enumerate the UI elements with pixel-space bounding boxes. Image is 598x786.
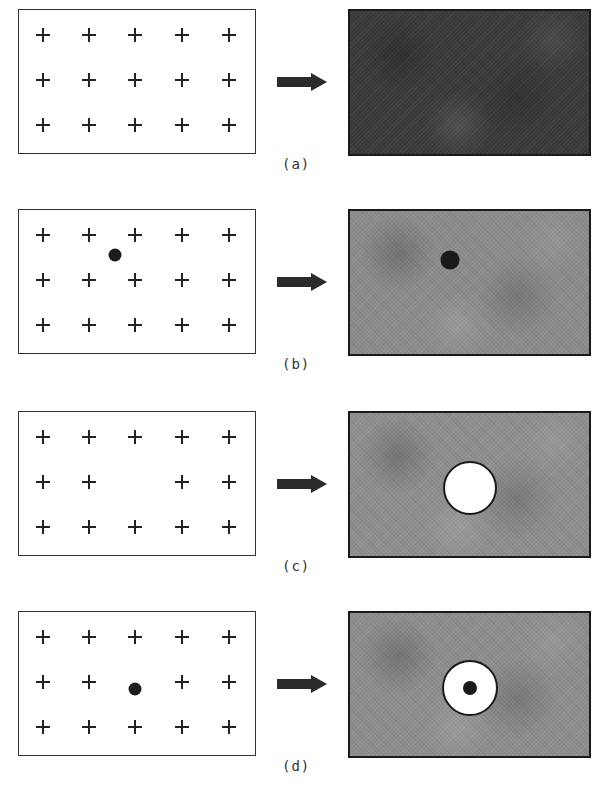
panel-label: (a)	[282, 156, 310, 172]
lattice-site-cross-icon	[36, 228, 50, 242]
lattice-site-cross-icon	[82, 28, 96, 42]
lattice-site-cross-icon	[222, 73, 236, 87]
panel-label: (b)	[282, 356, 310, 372]
lattice-site-cross-icon	[82, 318, 96, 332]
lattice-site-cross-icon	[82, 273, 96, 287]
panel-b: (b)	[0, 209, 598, 405]
lattice-site-cross-icon	[222, 430, 236, 444]
lattice-site-cross-icon	[82, 430, 96, 444]
lattice-box	[18, 209, 256, 354]
lattice-site-cross-icon	[175, 28, 189, 42]
lattice-site-cross-icon	[222, 318, 236, 332]
lattice-site-cross-icon	[36, 118, 50, 132]
lattice-site-cross-icon	[36, 28, 50, 42]
result-image-box	[348, 611, 591, 758]
lattice-site-cross-icon	[82, 630, 96, 644]
lattice-site-cross-icon	[222, 520, 236, 534]
lattice-site-cross-icon	[222, 720, 236, 734]
lattice-site-cross-icon	[82, 720, 96, 734]
lattice-site-cross-icon	[175, 630, 189, 644]
lattice-site-cross-icon	[175, 73, 189, 87]
lattice-box	[18, 611, 256, 756]
lattice-site-cross-icon	[222, 475, 236, 489]
result-image-box	[348, 9, 591, 156]
lattice-site-cross-icon	[222, 28, 236, 42]
lattice-site-cross-icon	[175, 118, 189, 132]
lattice-site-cross-icon	[82, 675, 96, 689]
lattice-site-cross-icon	[82, 520, 96, 534]
lattice-box	[18, 9, 256, 154]
defect-atom-dot	[109, 249, 122, 262]
lattice-site-cross-icon	[128, 520, 142, 534]
lattice-site-cross-icon	[82, 475, 96, 489]
lattice-site-cross-icon	[82, 73, 96, 87]
lattice-box	[18, 411, 256, 556]
lattice-site-cross-icon	[128, 228, 142, 242]
lattice-site-cross-icon	[128, 28, 142, 42]
imaged-defect-dot	[441, 251, 460, 270]
lattice-site-cross-icon	[175, 675, 189, 689]
texture	[350, 11, 589, 154]
defect-atom-dot	[129, 683, 142, 696]
lattice-site-cross-icon	[222, 228, 236, 242]
lattice-site-cross-icon	[36, 520, 50, 534]
lattice-site-cross-icon	[128, 273, 142, 287]
lattice-site-cross-icon	[175, 228, 189, 242]
right-arrow-icon	[277, 475, 327, 493]
lattice-site-cross-icon	[175, 273, 189, 287]
lattice-site-cross-icon	[36, 720, 50, 734]
lattice-site-cross-icon	[175, 430, 189, 444]
lattice-site-cross-icon	[82, 118, 96, 132]
lattice-site-cross-icon	[128, 318, 142, 332]
panel-label: (c)	[282, 558, 310, 574]
imaged-defect-dot	[463, 681, 477, 695]
lattice-site-cross-icon	[128, 720, 142, 734]
right-arrow-icon	[277, 675, 327, 693]
lattice-site-cross-icon	[36, 475, 50, 489]
panel-d: (d)	[0, 611, 598, 786]
lattice-site-cross-icon	[36, 318, 50, 332]
panel-label: (d)	[282, 758, 310, 774]
panel-c: (c)	[0, 411, 598, 607]
lattice-site-cross-icon	[128, 73, 142, 87]
result-image-box	[348, 411, 591, 558]
lattice-site-cross-icon	[175, 720, 189, 734]
right-arrow-icon	[277, 273, 327, 291]
lattice-site-cross-icon	[36, 273, 50, 287]
lattice-site-cross-icon	[175, 475, 189, 489]
lattice-site-cross-icon	[128, 630, 142, 644]
lattice-site-cross-icon	[128, 430, 142, 444]
result-image-box	[348, 209, 591, 356]
vacancy-hole	[443, 461, 497, 515]
lattice-site-cross-icon	[36, 430, 50, 444]
texture	[350, 211, 589, 354]
lattice-site-cross-icon	[222, 630, 236, 644]
lattice-site-cross-icon	[128, 118, 142, 132]
lattice-site-cross-icon	[175, 318, 189, 332]
lattice-site-cross-icon	[222, 273, 236, 287]
lattice-site-cross-icon	[36, 675, 50, 689]
lattice-site-cross-icon	[36, 630, 50, 644]
lattice-site-cross-icon	[222, 118, 236, 132]
lattice-site-cross-icon	[82, 228, 96, 242]
right-arrow-icon	[277, 73, 327, 91]
panel-a: (a)	[0, 9, 598, 205]
lattice-site-cross-icon	[175, 520, 189, 534]
lattice-site-cross-icon	[222, 675, 236, 689]
lattice-site-cross-icon	[36, 73, 50, 87]
